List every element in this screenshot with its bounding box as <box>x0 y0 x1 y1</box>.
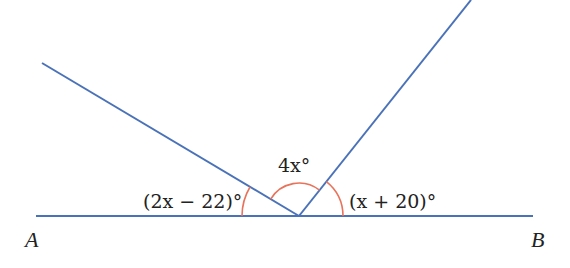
right-angle-arc <box>326 182 343 216</box>
left-angle-label: (2x − 22)° <box>143 190 242 212</box>
diagram-canvas: (2x − 22)° 4x° (x + 20)° A B <box>0 0 570 268</box>
right-ray <box>299 0 471 216</box>
point-b-label: B <box>531 227 544 252</box>
right-angle-label: (x + 20)° <box>349 190 436 212</box>
left-angle-arc <box>242 187 250 216</box>
middle-angle-label: 4x° <box>278 154 310 176</box>
point-a-label: A <box>23 227 39 252</box>
angle-diagram: (2x − 22)° 4x° (x + 20)° A B <box>0 0 570 268</box>
middle-angle-arc <box>271 183 320 199</box>
